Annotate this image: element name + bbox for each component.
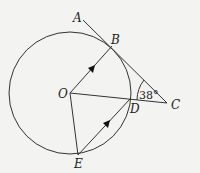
- label-e: E: [73, 157, 83, 171]
- segment-ed: [78, 99, 130, 155]
- label-b: B: [110, 33, 120, 47]
- label-o: O: [58, 87, 68, 101]
- label-a: A: [72, 11, 82, 25]
- segment-oe: [70, 93, 78, 155]
- angle-label: 38°: [139, 89, 159, 102]
- geometry-diagram: A B O D C E 38°: [0, 0, 200, 173]
- label-c: C: [171, 98, 180, 112]
- label-d: D: [129, 102, 140, 116]
